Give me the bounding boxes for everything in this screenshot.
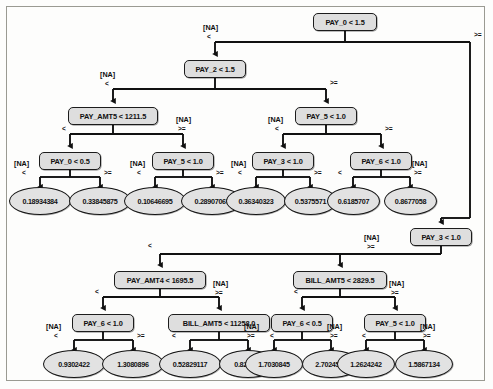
- node-l3[interactable]: PAY_6 < 1.0: [72, 314, 134, 332]
- edge-na-l3-left: [NA]: [46, 323, 61, 330]
- edge-ge-l4-right: >=: [247, 333, 255, 340]
- edge-lt-l3-left: <: [54, 333, 58, 340]
- edge-na-l6-right: [NA]: [420, 323, 435, 330]
- edge-ge-u3-right: >=: [385, 126, 393, 133]
- node-u0[interactable]: PAY_0 < 1.5: [313, 13, 377, 31]
- edge-ge-u7-right: >=: [414, 170, 422, 177]
- edge-ge-u5-right: >=: [216, 170, 224, 177]
- edge-lt-u0-left: <: [207, 34, 211, 41]
- edge-na-u0-left: [NA]: [203, 24, 218, 31]
- edge-lt-l2-left: <: [294, 289, 298, 296]
- edge-lt-l0-left: <: [148, 243, 152, 250]
- node-u2[interactable]: PAY_AMT5 < 1211.5: [68, 107, 158, 125]
- edge-na-l4-right: [NA]: [244, 323, 259, 330]
- node-l5[interactable]: PAY_6 < 0.5: [271, 314, 333, 332]
- edge-na-u2-right: [NA]: [176, 116, 191, 123]
- node-l2[interactable]: BILL_AMT5 < 2829.5: [293, 271, 387, 289]
- edge-ge-u6-right: >=: [314, 170, 322, 177]
- leaf-ul4[interactable]: 0.36340323: [226, 187, 286, 215]
- node-u3[interactable]: PAY_5 < 1.0: [295, 107, 357, 125]
- edge-lt-l6-left: <: [362, 333, 366, 340]
- node-u5[interactable]: PAY_5 < 1.0: [152, 152, 214, 170]
- leaf-ul6[interactable]: 0.6185707: [327, 187, 380, 215]
- edge-lt-l1-left: <: [95, 289, 99, 296]
- edge-ge-u4-right: >=: [104, 170, 112, 177]
- edge-ge-u2-right: >=: [178, 126, 186, 133]
- edge-ge-l6-right: >=: [423, 333, 431, 340]
- edge-lt-u3-left: <: [275, 126, 279, 133]
- edge-na-u5-left: [NA]: [130, 160, 145, 167]
- edge-ge-l5-right: >=: [330, 333, 338, 340]
- leaf-ul1[interactable]: 0.33845875: [69, 187, 131, 215]
- edge-lt-l5-left: <: [270, 333, 274, 340]
- edge-na-l5-right: [NA]: [327, 323, 342, 330]
- node-l6[interactable]: PAY_5 < 1.0: [364, 314, 426, 332]
- edge-ge-u0-right: >=: [474, 32, 482, 39]
- leaf-ll0[interactable]: 0.9302422: [43, 350, 105, 378]
- edge-na-l2-right: [NA]: [389, 280, 404, 287]
- edge-ge-l0-right: >=: [367, 244, 375, 251]
- edge-ge-u1-right: >=: [330, 80, 338, 87]
- edge-lt-u6-left: <: [238, 170, 242, 177]
- node-u1[interactable]: PAY_2 < 1.5: [184, 60, 246, 78]
- edge-na-u3-left: [NA]: [268, 116, 283, 123]
- leaf-ll6[interactable]: 1.2624242: [337, 350, 395, 378]
- edge-na-l0-right: [NA]: [364, 234, 379, 241]
- edge-na-u1-left: [NA]: [100, 71, 115, 78]
- edge-ge-l3-right: >=: [137, 333, 145, 340]
- leaf-ll1[interactable]: 1.3080896: [102, 350, 164, 378]
- node-u7[interactable]: PAY_6 < 1.0: [350, 152, 412, 170]
- node-l0[interactable]: PAY_3 < 1.0: [410, 228, 472, 246]
- leaf-ul7[interactable]: 0.8677058: [384, 187, 437, 215]
- node-l1[interactable]: PAY_AMT4 < 1695.5: [114, 271, 206, 289]
- node-u6[interactable]: PAY_3 < 1.0: [252, 152, 314, 170]
- edge-lt-u2-left: <: [62, 126, 66, 133]
- leaf-ll7[interactable]: 1.5867134: [395, 350, 453, 378]
- edge-na-l1-right: [NA]: [213, 280, 228, 287]
- leaf-ul0[interactable]: 0.18934384: [9, 187, 71, 215]
- edge-ge-l1-right: >=: [215, 290, 223, 297]
- leaf-ll2[interactable]: 0.52829117: [159, 350, 221, 378]
- edge-lt-l4-left: <: [172, 333, 176, 340]
- edge-na-u4-left: [NA]: [14, 160, 29, 167]
- edge-ge-l2-right: >=: [391, 290, 399, 297]
- edge-lt-u1-left: <: [105, 81, 109, 88]
- node-u4[interactable]: PAY_0 < 0.5: [39, 152, 101, 170]
- edge-lt-u4-left: <: [22, 170, 26, 177]
- edge-lt-u7-left: <: [338, 170, 342, 177]
- leaf-ul2[interactable]: 0.10646695: [124, 187, 186, 215]
- leaf-ll4[interactable]: 1.7030845: [245, 350, 303, 378]
- edge-na-u7-right: [NA]: [412, 160, 427, 167]
- edge-na-u6-left: [NA]: [231, 160, 246, 167]
- edge-lt-u5-left: <: [137, 170, 141, 177]
- decision-tree-diagram: PAY_0 < 1.5 PAY_2 < 1.5 PAY_AMT5 < 1211.…: [0, 0, 493, 389]
